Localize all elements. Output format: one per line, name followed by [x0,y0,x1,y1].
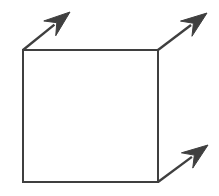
arrow-bottom-right-shaft [158,157,192,182]
arrow-top-right-shaft [158,25,191,50]
arrow-top-left-shaft [23,25,54,50]
arrow-bottom-right-head [181,145,208,168]
arrow-top-right [158,13,207,50]
arrow-top-right-head [181,13,207,36]
arrow-bottom-right [158,145,208,182]
square-outline [23,50,158,182]
diagram-svg: An open square outline drawn in dark gra… [0,0,219,196]
arrow-top-left [23,12,70,50]
arrow-top-left-head [44,12,70,36]
figure-canvas: An open square outline drawn in dark gra… [0,0,219,196]
